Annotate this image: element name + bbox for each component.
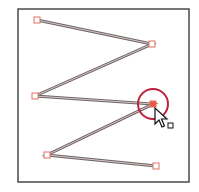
anchor-points[interactable]	[32, 17, 159, 169]
selected-anchor-point[interactable]	[150, 101, 156, 107]
canvas[interactable]	[0, 0, 199, 192]
anchor-point[interactable]	[44, 152, 50, 158]
anchor-point[interactable]	[34, 17, 40, 23]
anchor-point[interactable]	[32, 93, 38, 99]
direct-selection-arrow-icon	[155, 108, 173, 128]
anchor-point[interactable]	[153, 163, 159, 169]
anchor-point[interactable]	[149, 41, 155, 47]
anchor-square-badge	[168, 123, 173, 128]
zigzag-path[interactable]	[35, 20, 156, 166]
